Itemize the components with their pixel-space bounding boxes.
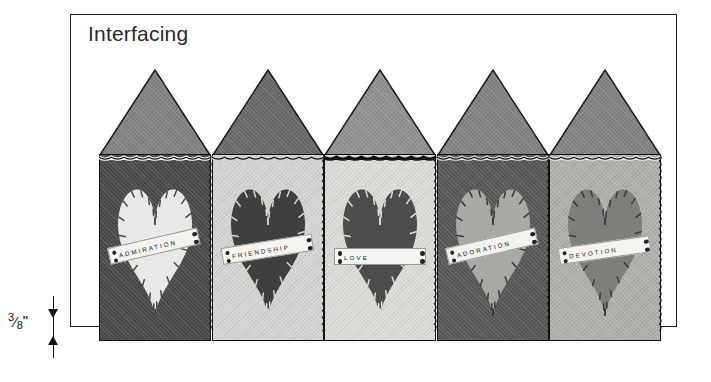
interfacing-label: Interfacing [88, 22, 188, 46]
panel-body: ADORATION [437, 154, 549, 341]
tag-button-icon [307, 245, 312, 250]
banner-panel-1[interactable]: ADMIRATION [99, 66, 211, 341]
tag-button-icon [529, 231, 535, 237]
panel-roof-triangle [324, 66, 436, 156]
tag-button-icon [225, 258, 230, 263]
measurement-unit: " [23, 312, 28, 329]
panel-roof-triangle [212, 66, 324, 156]
banner-panel-5[interactable]: DEVOTION [549, 66, 661, 341]
tag-button-icon [531, 239, 537, 245]
tag-button-icon [338, 251, 343, 256]
tag-button-icon [224, 250, 229, 255]
tag-button-icon [643, 239, 648, 244]
measurement-numerator: 3 [8, 311, 14, 323]
tag-button-icon [420, 251, 425, 256]
panel-roof-triangle [549, 66, 661, 156]
banner-panels: ADMIRATIONFRIENDSHIPLOVEADORATIONDEVOTIO… [99, 66, 661, 341]
tag-button-icon [338, 259, 343, 264]
panel-roof-triangle [99, 66, 211, 156]
banner-panel-3[interactable]: LOVE [324, 66, 436, 341]
heart-label-text: LOVE [344, 254, 369, 261]
banner-panel-2[interactable]: FRIENDSHIP [212, 66, 324, 341]
tag-button-icon [111, 250, 117, 256]
panel-body: FRIENDSHIP [212, 154, 324, 341]
tag-button-icon [193, 239, 199, 245]
diagram-canvas: Interfacing 3⁄8" ADMIRATIONFRIENDSHIPLOV… [0, 0, 711, 382]
measurement-arrow-up-icon [48, 336, 58, 345]
panel-body: ADMIRATION [99, 154, 211, 341]
measurement-denominator: 8 [17, 319, 23, 331]
banner-panel-4[interactable]: ADORATION [437, 66, 549, 341]
panel-body: LOVE [324, 154, 436, 341]
tag-button-icon [306, 237, 311, 242]
tag-button-icon [645, 247, 650, 252]
tag-button-icon [563, 258, 568, 263]
tag-button-icon [451, 257, 457, 263]
measurement-extension-line [53, 296, 54, 358]
tag-button-icon [449, 250, 455, 256]
scalloped-seam [660, 154, 662, 331]
tag-button-icon [113, 257, 119, 263]
tag-button-icon [192, 231, 198, 237]
measurement-annotation: 3⁄8" [8, 296, 72, 358]
measurement-label: 3⁄8" [8, 310, 28, 329]
panel-body: DEVOTION [549, 154, 661, 341]
tag-button-icon [562, 250, 567, 255]
heart-label-tag[interactable]: LOVE [334, 248, 426, 265]
panel-roof-triangle [437, 66, 549, 156]
measurement-arrow-down-icon [48, 309, 58, 318]
tag-button-icon [420, 259, 425, 264]
heart-label-text: DEVOTION [569, 246, 619, 260]
